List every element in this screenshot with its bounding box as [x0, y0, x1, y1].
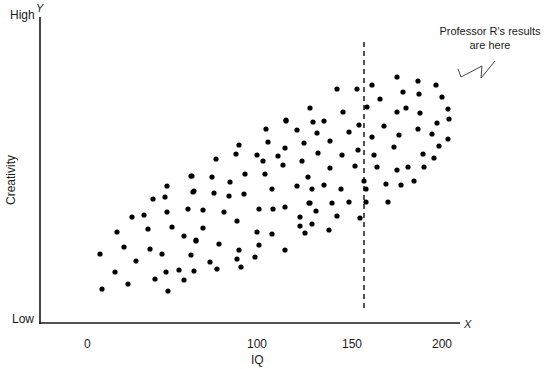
data-point [234, 256, 239, 261]
data-point [262, 171, 267, 176]
data-point [189, 173, 194, 178]
data-point [421, 164, 426, 169]
data-point [297, 214, 302, 219]
data-point [339, 152, 344, 157]
data-point [391, 144, 396, 149]
data-point [394, 74, 399, 79]
data-point [207, 259, 212, 264]
data-point [309, 221, 314, 226]
data-point [377, 96, 382, 101]
data-point [256, 242, 261, 247]
annotation-zigzag-arrow-icon [458, 61, 495, 78]
data-point [436, 143, 441, 148]
data-point [363, 186, 368, 191]
data-point [176, 267, 181, 272]
data-point [164, 183, 169, 188]
data-point [396, 132, 401, 137]
data-point [314, 130, 319, 135]
data-point [294, 127, 299, 132]
data-point [256, 206, 261, 211]
data-point [305, 174, 310, 179]
data-point [361, 178, 366, 183]
data-point [145, 226, 150, 231]
data-point [164, 209, 169, 214]
data-point [334, 213, 339, 218]
data-point [299, 158, 304, 163]
data-point [301, 140, 306, 145]
data-point [269, 231, 274, 236]
data-point [185, 206, 190, 211]
data-point [147, 246, 152, 251]
data-point [445, 106, 450, 111]
x-axis-symbol: X [464, 318, 471, 330]
data-point [283, 118, 288, 123]
data-point [321, 182, 326, 187]
data-point [282, 247, 287, 252]
data-point [280, 162, 285, 167]
data-point [394, 167, 399, 172]
data-point [129, 214, 134, 219]
data-point [352, 163, 357, 168]
data-point [141, 212, 146, 217]
data-point [302, 230, 307, 235]
data-point [310, 119, 315, 124]
data-point [191, 268, 196, 273]
data-point [420, 151, 425, 156]
data-point [326, 227, 331, 232]
data-point [169, 224, 174, 229]
x-tick-0: 0 [84, 337, 91, 351]
data-point [307, 105, 312, 110]
data-point [416, 91, 421, 96]
data-point [383, 181, 388, 186]
data-point [275, 153, 280, 158]
data-points [97, 74, 451, 293]
data-point [309, 186, 314, 191]
data-point [211, 190, 216, 195]
data-point [297, 223, 302, 228]
data-point [133, 258, 138, 263]
data-point [321, 118, 326, 123]
data-point [433, 82, 438, 87]
data-point [114, 229, 119, 234]
data-point [394, 109, 399, 114]
data-point [415, 78, 420, 83]
data-point [254, 229, 259, 234]
data-point [163, 269, 168, 274]
data-point [121, 244, 126, 249]
data-point [112, 269, 117, 274]
data-point [371, 152, 376, 157]
data-point [445, 136, 450, 141]
data-point [233, 151, 238, 156]
data-point [369, 134, 374, 139]
data-point [431, 155, 436, 160]
data-point [415, 126, 420, 131]
data-point [307, 200, 312, 205]
data-point [381, 123, 386, 128]
data-point [159, 251, 164, 256]
data-point [355, 147, 360, 152]
data-point [213, 156, 218, 161]
data-point [190, 189, 195, 194]
data-point [236, 142, 241, 147]
data-point [254, 152, 259, 157]
data-point [398, 182, 403, 187]
data-point [346, 129, 351, 134]
data-point [234, 218, 239, 223]
data-point [338, 186, 343, 191]
data-point [193, 237, 198, 242]
x-axis-title: IQ [251, 353, 264, 367]
data-point [282, 204, 287, 209]
data-point [400, 89, 405, 94]
data-point [346, 199, 351, 204]
data-point [282, 145, 287, 150]
data-point [227, 179, 232, 184]
data-point [446, 116, 451, 121]
x-tick-200: 200 [432, 337, 452, 351]
data-point [150, 196, 155, 201]
data-point [434, 120, 439, 125]
data-point [313, 208, 318, 213]
data-point [226, 193, 231, 198]
data-point [263, 126, 268, 131]
data-point [294, 183, 299, 188]
data-point [242, 171, 247, 176]
